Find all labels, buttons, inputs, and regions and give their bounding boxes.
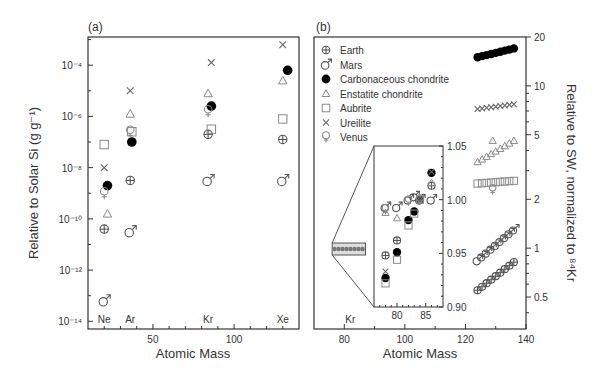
panel-a-y-label: Relative to Solar Si (g g⁻¹) bbox=[26, 107, 41, 259]
cross-marker-icon bbox=[101, 164, 108, 171]
square bbox=[479, 180, 486, 187]
element-label: Xe bbox=[277, 314, 290, 325]
square bbox=[483, 179, 490, 186]
cross-marker-icon bbox=[511, 101, 517, 107]
legend-label: Earth bbox=[340, 45, 364, 56]
filled-circle bbox=[127, 137, 137, 147]
panel-b-label: (b) bbox=[316, 20, 331, 34]
square-marker-icon bbox=[128, 128, 136, 136]
mars-circle bbox=[278, 177, 286, 185]
panel-b-x-label: Atomic Mass bbox=[383, 346, 458, 361]
panel-a-x-label: Atomic Mass bbox=[156, 346, 231, 361]
venus-marker-icon bbox=[100, 187, 108, 199]
panel-a-label: (a) bbox=[88, 20, 103, 34]
triangle-marker-icon bbox=[103, 210, 111, 218]
earth-marker-icon bbox=[322, 46, 330, 54]
mars-marker-icon bbox=[99, 295, 110, 306]
legend-label: Carbonaceous chondrite bbox=[340, 74, 449, 85]
inset-connector bbox=[332, 255, 374, 307]
x-tick-label: 80 bbox=[339, 334, 351, 345]
inset-y-tick-label: 0.95 bbox=[447, 248, 467, 259]
x-tick-label: 120 bbox=[457, 334, 474, 345]
x-tick-label: 140 bbox=[518, 334, 535, 345]
filled-circle-marker-icon bbox=[427, 169, 435, 177]
earth-marker-icon bbox=[100, 225, 108, 233]
triangle-marker-icon bbox=[126, 110, 134, 118]
y-tick-label: 2 bbox=[534, 194, 540, 205]
square bbox=[100, 140, 108, 148]
earth-marker-icon bbox=[510, 259, 517, 266]
square-marker-icon bbox=[497, 178, 504, 185]
triangle bbox=[322, 90, 330, 97]
inset-x-tick-label: 85 bbox=[420, 310, 432, 321]
filled-circle-marker-icon bbox=[283, 65, 293, 75]
legend-label: Mars bbox=[340, 60, 362, 71]
kr-cluster-point bbox=[348, 247, 352, 251]
triangle bbox=[103, 210, 111, 218]
triangle-marker-icon bbox=[489, 137, 496, 143]
triangle bbox=[204, 89, 212, 97]
square-marker-icon bbox=[483, 179, 490, 186]
y-tick-label: 1 bbox=[534, 243, 540, 254]
filled-circle-marker-icon bbox=[393, 248, 401, 256]
kr-cluster-point bbox=[352, 247, 356, 251]
filled-circle bbox=[322, 75, 331, 84]
kr-cluster-point bbox=[336, 247, 340, 251]
element-label: Ne bbox=[98, 314, 111, 325]
triangle bbox=[279, 76, 287, 84]
filled-circle bbox=[381, 274, 389, 282]
cross-marker-icon bbox=[279, 41, 286, 48]
y-tick-label: 0.5 bbox=[534, 292, 548, 303]
square bbox=[506, 178, 513, 185]
filled-circle bbox=[393, 248, 401, 256]
mars-arrow bbox=[106, 295, 110, 299]
inset-x-tick-label: 80 bbox=[391, 310, 403, 321]
filled-circle bbox=[283, 65, 293, 75]
square bbox=[510, 177, 517, 184]
filled-circle bbox=[510, 44, 518, 52]
filled-circle-marker-icon bbox=[510, 44, 518, 52]
mars-marker-icon bbox=[278, 174, 289, 185]
mars-arrow bbox=[210, 174, 214, 178]
square-marker-icon bbox=[501, 178, 508, 185]
filled-circle-marker-icon bbox=[381, 274, 389, 282]
inset-y-tick-label: 1.00 bbox=[447, 195, 467, 206]
legend-label: Aubrite bbox=[340, 103, 372, 114]
kr-cluster-point bbox=[332, 247, 336, 251]
earth-marker-icon bbox=[126, 176, 134, 184]
square bbox=[322, 104, 330, 112]
square bbox=[497, 178, 504, 185]
mars-circle bbox=[99, 298, 107, 306]
triangle-marker-icon bbox=[279, 76, 287, 84]
panel-a-element-labels: NeArKrXe bbox=[98, 314, 289, 325]
square-marker-icon bbox=[279, 115, 287, 123]
mars-marker-icon bbox=[203, 174, 214, 185]
filled-circle-marker-icon bbox=[410, 207, 418, 215]
inset-y-tick-label: 1.05 bbox=[447, 141, 467, 152]
element-label: Kr bbox=[345, 314, 356, 325]
panel-a-frame bbox=[88, 37, 299, 329]
panel-b-chart: 0.51251020 80100120140Kr EarthMarsCarbon… bbox=[314, 32, 579, 361]
triangle-marker-icon bbox=[510, 137, 517, 143]
x-tick-label: 100 bbox=[397, 334, 414, 345]
kr-cluster-point bbox=[340, 247, 344, 251]
triangle bbox=[126, 110, 134, 118]
inset-y-tick-label: 0.90 bbox=[447, 302, 467, 313]
kr-cluster-point bbox=[356, 247, 360, 251]
panel-b-y-label: Relative to SW, normalized to ⁸⁴Kr bbox=[564, 84, 579, 283]
x-tick-label: 50 bbox=[147, 334, 159, 345]
filled-circle bbox=[410, 207, 418, 215]
square-marker-icon bbox=[506, 178, 513, 185]
panel-b-legend: EarthMarsCarbonaceous chondriteEnstatite… bbox=[321, 45, 449, 143]
x-tick-label: 100 bbox=[226, 334, 243, 345]
legend-label: Venus bbox=[340, 132, 368, 143]
earth-marker-icon bbox=[279, 135, 287, 143]
mars-circle bbox=[473, 258, 480, 265]
y-tick-label: 10⁻⁴ bbox=[62, 60, 82, 71]
panel-a-x-axis: 50100 bbox=[104, 324, 283, 345]
triangle bbox=[510, 137, 517, 143]
panel-a-chart: 10⁻⁴10⁻⁶10⁻⁸10⁻¹⁰10⁻¹²10⁻¹⁴ 50100 NeArKr… bbox=[26, 37, 299, 361]
y-tick-label: 10⁻¹⁴ bbox=[58, 316, 82, 327]
venus-circle bbox=[323, 132, 330, 139]
y-tick-label: 10⁻⁸ bbox=[62, 163, 82, 174]
